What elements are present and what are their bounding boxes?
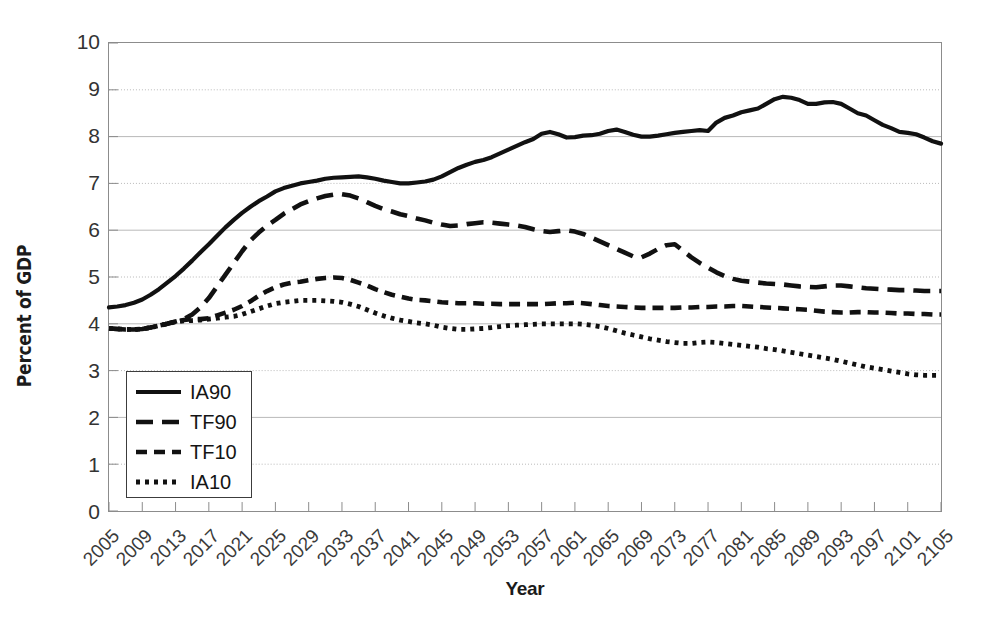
y-tick-label: 9 — [40, 78, 100, 99]
legend-label: TF10 — [190, 442, 237, 462]
y-tick-label: 4 — [40, 313, 100, 334]
legend-swatch-dot-icon — [135, 475, 182, 489]
y-tick-label: 6 — [40, 219, 100, 240]
legend-item-ia10[interactable]: IA10 — [127, 467, 251, 497]
y-tick-label: 10 — [40, 31, 100, 52]
legend-swatch-solid-icon — [135, 385, 182, 399]
y-tick-label: 7 — [40, 172, 100, 193]
series-lines — [109, 97, 941, 375]
y-tick-label: 1 — [40, 454, 100, 475]
legend-swatch-longdash-icon — [135, 415, 182, 429]
y-tick-label: 0 — [40, 501, 100, 522]
legend-label: TF90 — [190, 412, 237, 432]
chart-container: Percent of GDP 109876543210 200520092013… — [0, 0, 991, 632]
legend-item-tf90[interactable]: TF90 — [127, 407, 251, 437]
y-tick-label: 2 — [40, 407, 100, 428]
legend-swatch-dash-icon — [135, 445, 182, 459]
series-line-ia90 — [109, 97, 941, 308]
y-tick-label: 8 — [40, 125, 100, 146]
legend-label: IA10 — [190, 472, 231, 492]
y-tick-label: 5 — [40, 266, 100, 287]
legend-label: IA90 — [190, 382, 231, 402]
legend-item-tf10[interactable]: TF10 — [127, 437, 251, 467]
y-tick-label: 3 — [40, 360, 100, 381]
x-axis-title: Year — [108, 578, 942, 600]
legend-item-ia90[interactable]: IA90 — [127, 377, 251, 407]
legend: IA90TF90TF10IA10 — [126, 371, 252, 498]
